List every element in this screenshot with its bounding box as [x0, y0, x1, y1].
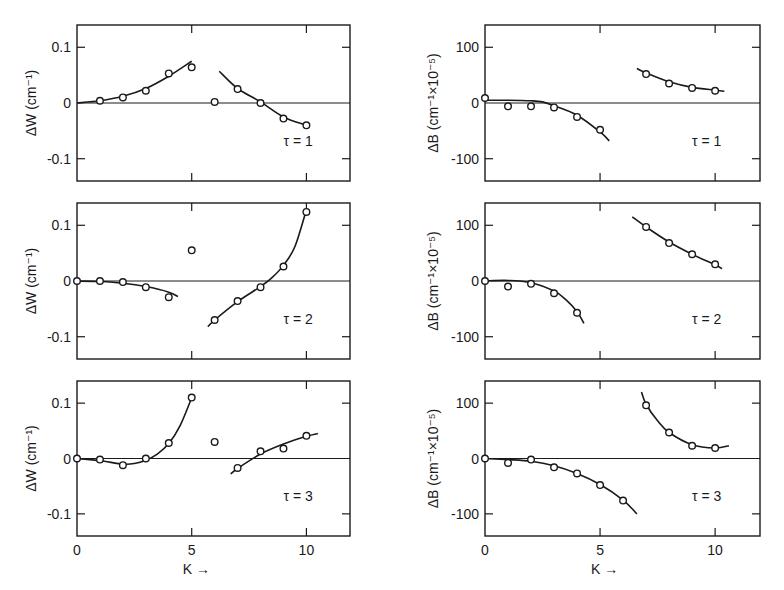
data-point	[689, 251, 696, 258]
y-tick-label: 0	[471, 273, 479, 289]
data-point	[188, 64, 195, 71]
data-point	[505, 283, 512, 290]
data-point	[666, 240, 673, 247]
data-point	[689, 442, 696, 449]
y-tick-label: -0.1	[47, 506, 71, 522]
x-tick-label: 5	[188, 542, 196, 558]
data-point	[482, 455, 489, 462]
y-tick-label: 0.1	[52, 39, 72, 55]
panel-middle-right: -1000100ΔB (cm⁻¹×10⁻⁵)τ = 2	[425, 203, 760, 359]
data-point	[120, 279, 127, 286]
fit-curve	[77, 281, 178, 297]
panel-bottom-right: -10001000510K →ΔB (cm⁻¹×10⁻⁵)τ = 3	[425, 381, 760, 577]
panels: -0.100.1ΔW (cm⁻¹)τ = 1-1000100ΔB (cm⁻¹×1…	[23, 25, 760, 577]
y-axis-label: ΔB (cm⁻¹×10⁻⁵)	[425, 409, 441, 509]
data-point	[712, 261, 719, 268]
data-point	[551, 104, 558, 111]
data-point	[97, 278, 104, 285]
data-point	[597, 126, 604, 133]
y-tick-label: 0.1	[52, 217, 72, 233]
data-point	[551, 290, 558, 297]
tau-label: τ = 3	[283, 488, 312, 504]
y-tick-label: 100	[456, 39, 480, 55]
data-point	[643, 71, 650, 78]
y-tick-label: -100	[451, 329, 479, 345]
y-tick-label: 0	[63, 95, 71, 111]
x-tick-label: 5	[596, 542, 604, 558]
data-point	[74, 278, 81, 285]
data-point	[303, 122, 310, 129]
data-point	[528, 280, 535, 287]
y-tick-label: -100	[451, 151, 479, 167]
fit-curve	[641, 392, 728, 448]
data-point	[211, 99, 218, 106]
panel-top-right: -1000100ΔB (cm⁻¹×10⁻⁵)τ = 1	[425, 25, 760, 181]
data-point	[505, 103, 512, 110]
fit-curve	[485, 100, 609, 141]
fit-curve	[231, 434, 318, 474]
data-point	[303, 433, 310, 440]
fit-curve	[219, 71, 306, 125]
data-point	[574, 114, 581, 121]
fit-curve	[77, 398, 192, 465]
data-point	[280, 445, 287, 452]
data-point	[97, 456, 104, 463]
data-point	[551, 464, 558, 471]
data-point	[712, 87, 719, 94]
y-tick-label: -100	[451, 506, 479, 522]
y-tick-label: 0.1	[52, 395, 72, 411]
data-point	[505, 460, 512, 467]
fit-curve	[77, 61, 192, 103]
data-point	[689, 85, 696, 92]
data-point	[74, 455, 81, 462]
data-point	[257, 448, 264, 455]
data-point	[712, 445, 719, 452]
data-point	[143, 87, 150, 94]
data-point	[643, 224, 650, 231]
data-point	[234, 86, 241, 93]
data-point	[143, 455, 150, 462]
y-tick-label: -0.1	[47, 151, 71, 167]
data-point	[482, 278, 489, 285]
data-point	[211, 317, 218, 324]
y-tick-label: 0	[63, 273, 71, 289]
data-point	[528, 103, 535, 110]
y-axis-label: ΔW (cm⁻¹)	[23, 248, 39, 315]
y-tick-label: 100	[456, 217, 480, 233]
tau-label: τ = 3	[692, 488, 721, 504]
y-tick-label: -0.1	[47, 329, 71, 345]
x-axis-label: K →	[591, 561, 618, 577]
data-point	[574, 470, 581, 477]
tau-label: τ = 1	[692, 133, 721, 149]
data-point	[234, 298, 241, 305]
data-point	[620, 497, 627, 504]
x-tick-label: 0	[481, 542, 489, 558]
tau-label: τ = 2	[692, 311, 721, 327]
data-point	[666, 80, 673, 87]
x-axis-label: K →	[183, 561, 210, 577]
data-point	[482, 95, 489, 102]
data-point	[143, 284, 150, 291]
data-point	[257, 100, 264, 107]
x-tick-label: 10	[299, 542, 315, 558]
data-point	[528, 456, 535, 463]
panel-bottom-left: -0.100.10510K →ΔW (cm⁻¹)τ = 3	[23, 381, 350, 577]
tau-label: τ = 1	[283, 133, 312, 149]
x-tick-label: 10	[707, 542, 723, 558]
fit-curve	[208, 210, 307, 327]
y-tick-label: 0	[471, 451, 479, 467]
chart-svg: -0.100.1ΔW (cm⁻¹)τ = 1-1000100ΔB (cm⁻¹×1…	[0, 0, 784, 590]
data-point	[234, 465, 241, 472]
y-tick-label: 0	[471, 95, 479, 111]
y-tick-label: 100	[456, 395, 480, 411]
fit-curve	[637, 68, 724, 91]
panel-middle-left: -0.100.1ΔW (cm⁻¹)τ = 2	[23, 203, 350, 359]
data-point	[97, 97, 104, 104]
y-axis-label: ΔB (cm⁻¹×10⁻⁵)	[425, 231, 441, 331]
fit-curve	[485, 280, 584, 323]
data-point	[188, 247, 195, 254]
data-point	[280, 115, 287, 122]
data-point	[666, 429, 673, 436]
y-tick-label: 0	[63, 451, 71, 467]
data-point	[574, 309, 581, 316]
